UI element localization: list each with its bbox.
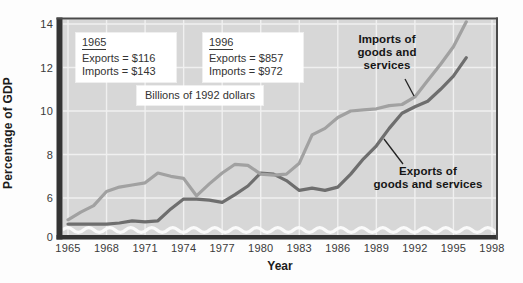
annotation-box-1996-title: 1996 <box>209 36 233 50</box>
imports-exports-gdp-chart: Percentage of GDP 141210860 196519681971… <box>0 0 523 283</box>
exports-series-label-line1: Exports of <box>366 165 490 178</box>
x-tick-label-1998: 1998 <box>479 242 504 254</box>
x-tick-label-1989: 1989 <box>364 242 389 254</box>
x-tick-label-1980: 1980 <box>248 242 273 254</box>
imports-series-label-line3: services <box>353 59 421 72</box>
x-tick-label-1965: 1965 <box>55 242 80 254</box>
y-tick-label-14: 14 <box>19 18 53 30</box>
annotation-box-1965-exports: Exports = $116 <box>82 52 155 64</box>
y-axis-title: Percentage of GDP <box>1 68 15 198</box>
imports-series-label: Imports of goods and services <box>353 33 421 72</box>
x-tick-label-1992: 1992 <box>402 242 427 254</box>
y-tick-label-12: 12 <box>19 62 53 74</box>
x-axis-title: Year <box>247 259 313 273</box>
y-tick-label-6: 6 <box>19 192 53 204</box>
exports-series-label-line2: goods and services <box>366 178 490 191</box>
x-tick-label-1983: 1983 <box>287 242 312 254</box>
annotation-box-1996: 1996 Exports = $857 Imports = $972 <box>203 33 303 82</box>
imports-series-label-line1: Imports of <box>353 33 421 46</box>
x-tick-label-1971: 1971 <box>132 242 157 254</box>
annotation-box-1965: 1965 Exports = $116 Imports = $143 <box>76 33 176 82</box>
annotation-box-1996-imports: Imports = $972 <box>209 65 283 77</box>
x-tick-label-1995: 1995 <box>441 242 466 254</box>
imports-series-label-line2: goods and <box>353 46 421 59</box>
unit-note-box: Billions of 1992 dollars <box>137 86 263 105</box>
x-tick-label-1986: 1986 <box>325 242 350 254</box>
y-tick-label-8: 8 <box>19 149 53 161</box>
annotation-box-1996-exports: Exports = $857 <box>209 52 283 64</box>
x-tick-label-1968: 1968 <box>94 242 119 254</box>
y-tick-label-0: 0 <box>19 231 53 243</box>
exports-series-label: Exports of goods and services <box>366 165 490 191</box>
x-tick-label-1977: 1977 <box>210 242 235 254</box>
y-tick-label-10: 10 <box>19 105 53 117</box>
annotation-box-1965-imports: Imports = $143 <box>82 65 156 77</box>
annotation-box-1965-title: 1965 <box>82 36 106 50</box>
x-tick-label-1974: 1974 <box>171 242 196 254</box>
